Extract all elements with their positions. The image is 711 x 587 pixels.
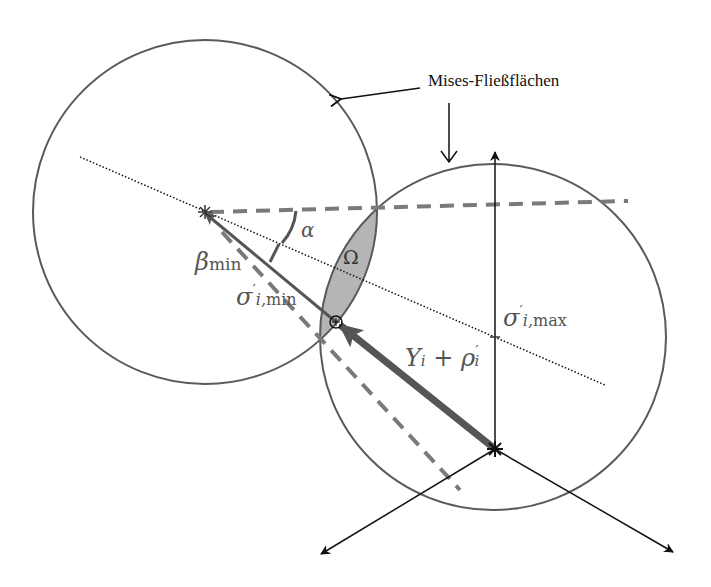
beta-angle-tick <box>270 244 279 262</box>
rho-symbol: ρ <box>461 344 475 372</box>
origin-star-icon <box>487 441 503 457</box>
annotation-label: Mises-Fließflächen <box>428 72 559 89</box>
sigma-min-prime: ′ <box>252 281 255 299</box>
beta-symbol: β <box>195 248 209 276</box>
sigma-max-prime: ′ <box>519 302 522 320</box>
rho-prime: ′ <box>475 342 478 360</box>
alpha-label: α <box>301 220 315 240</box>
lower-right-axis <box>495 449 673 552</box>
annotation-pointer-left <box>341 88 420 99</box>
sigma-min-label: σ′i,min <box>236 285 297 309</box>
omega-label: Ω <box>343 248 359 267</box>
sigma-min-sub-i: i, <box>256 290 266 309</box>
dashed-horizontal-line <box>210 201 628 212</box>
alpha-angle-arc <box>282 211 296 243</box>
sigma-max-sub: max <box>533 311 567 330</box>
y-symbol: Y <box>405 344 421 372</box>
sigma-max-sub-i: i, <box>523 311 533 330</box>
plus-sign: + <box>426 344 461 372</box>
yield-vector-label: Yi + ρ′i <box>405 346 479 370</box>
beta-min-label: βmin <box>195 250 241 274</box>
annotation-pointer-down <box>441 103 457 162</box>
beta-subscript: min <box>209 254 242 274</box>
sigma-min-sub: min <box>266 290 297 309</box>
left-center-star-icon <box>198 205 212 219</box>
lower-left-axis <box>321 449 495 554</box>
sigma-max-symbol: σ <box>503 304 519 332</box>
sigma-max-label: σ′i,max <box>503 306 567 330</box>
sigma-min-symbol: σ <box>236 283 252 311</box>
mises-diagram <box>0 0 711 587</box>
